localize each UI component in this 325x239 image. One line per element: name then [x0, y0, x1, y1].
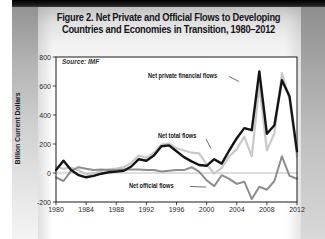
- series-label-net-total-flows: Net total flows: [158, 132, 196, 139]
- x-tick-label: 2004: [225, 205, 249, 214]
- series-label-net-private-financial-flows: Net private financial flows: [148, 72, 217, 79]
- figure-2-chart: Figure 2. Net Private and Official Flows…: [0, 0, 325, 239]
- x-tick-label: 1992: [134, 205, 158, 214]
- x-tick-label: 1988: [104, 205, 128, 214]
- source-note: Source: IMF: [62, 58, 99, 65]
- x-tick-label: 1984: [74, 205, 98, 214]
- x-tick-label: 2012: [285, 205, 309, 214]
- y-tick-label: 200: [27, 140, 51, 149]
- x-tick-label: 2008: [255, 205, 279, 214]
- series-label-net-official-flows: Net official flows: [129, 182, 174, 189]
- x-tick-label: 1980: [44, 205, 68, 214]
- y-tick-label: 0: [27, 169, 51, 178]
- y-tick-label: 600: [27, 82, 51, 91]
- x-tick-label: 2000: [195, 205, 219, 214]
- y-tick-label: 400: [27, 111, 51, 120]
- leader-net-official: [190, 187, 206, 188]
- x-tick-label: 1996: [165, 205, 189, 214]
- y-tick-label: 800: [27, 53, 51, 62]
- y-axis-title: Billion Current Dollars: [14, 69, 25, 189]
